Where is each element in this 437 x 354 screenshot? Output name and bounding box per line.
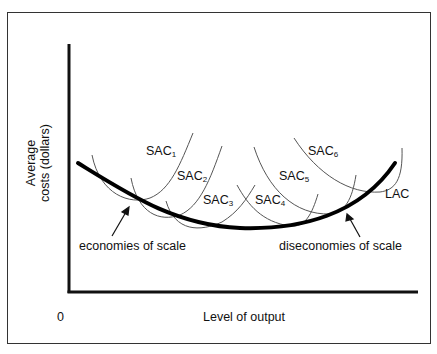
sac4-label: SAC4: [255, 194, 285, 208]
y-axis-label: Average costs (dollars): [24, 108, 52, 218]
sac3-label: SAC3: [203, 194, 233, 208]
sac2-label: SAC2: [177, 170, 207, 184]
diseconomies-of-scale-label: diseconomies of scale: [279, 240, 402, 253]
sac1-curve: [92, 133, 193, 200]
origin-label: 0: [57, 311, 64, 324]
sac1-label: SAC1: [146, 145, 176, 159]
arrowhead-icon: [122, 207, 129, 215]
y-axis-label-line1: Average: [24, 108, 38, 218]
diseconomies-arrow: [350, 219, 360, 237]
economies-arrow: [112, 212, 126, 236]
cost-curves-diagram: [0, 0, 437, 354]
y-axis-label-line2: costs (dollars): [38, 108, 52, 218]
economies-of-scale-label: economies of scale: [79, 240, 186, 253]
x-axis-label: Level of output: [203, 311, 285, 324]
sac6-label: SAC6: [308, 145, 338, 159]
lac-label: LAC: [385, 188, 409, 201]
arrowhead-icon: [346, 214, 353, 221]
sac5-label: SAC5: [279, 170, 309, 184]
